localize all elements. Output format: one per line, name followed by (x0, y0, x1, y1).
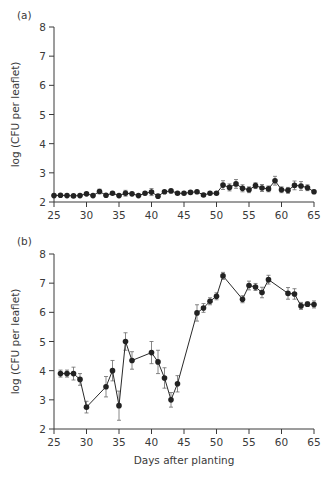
x-tick-label: 60 (275, 436, 288, 448)
panel-b: (b)2345678253035404550556065log (CFU per… (9, 235, 321, 466)
y-axis-title: log (CFU per leaflet) (9, 62, 21, 168)
x-tick-label: 55 (242, 436, 255, 448)
data-point (194, 310, 200, 316)
y-tick-label: 7 (39, 50, 46, 62)
data-point (155, 193, 161, 199)
data-point (305, 301, 311, 307)
x-tick-label: 50 (210, 209, 223, 221)
y-tick-label: 6 (39, 306, 46, 318)
data-point (90, 193, 96, 199)
data-point (84, 191, 90, 197)
data-point (207, 298, 213, 304)
data-point (155, 359, 161, 365)
data-point (298, 183, 304, 189)
x-tick-label: 65 (307, 436, 320, 448)
data-point (201, 192, 207, 198)
x-tick-label: 45 (177, 209, 190, 221)
data-point (142, 190, 148, 196)
data-point (266, 277, 272, 283)
data-point (103, 192, 109, 198)
x-tick-label: 50 (210, 436, 223, 448)
y-tick-label: 5 (39, 336, 46, 348)
data-point (259, 290, 265, 296)
data-point (266, 186, 272, 192)
series-line (61, 276, 315, 407)
data-point (136, 193, 142, 199)
data-point (64, 193, 70, 199)
data-point (253, 183, 259, 189)
data-point (64, 371, 70, 377)
data-point (162, 375, 168, 381)
data-point (233, 181, 239, 187)
data-point (292, 291, 298, 297)
data-point (123, 190, 129, 196)
x-tick-label: 35 (112, 436, 125, 448)
data-point (220, 182, 226, 188)
data-point (71, 371, 77, 377)
data-point (149, 350, 155, 356)
data-point (168, 188, 174, 194)
data-point (103, 384, 109, 390)
data-point (246, 187, 252, 193)
data-point (175, 381, 181, 387)
data-point (201, 305, 207, 311)
data-point (162, 189, 168, 195)
data-point (220, 273, 226, 279)
x-tick-label: 60 (275, 209, 288, 221)
data-point (246, 283, 252, 289)
data-point (110, 368, 116, 374)
y-tick-label: 6 (39, 79, 46, 91)
data-point (298, 303, 304, 309)
data-point (58, 371, 64, 377)
data-point (149, 189, 155, 195)
data-point (129, 358, 135, 364)
data-point (71, 193, 77, 199)
data-point (188, 190, 194, 196)
data-point (311, 189, 317, 195)
data-point (292, 183, 298, 189)
data-point (240, 296, 246, 302)
data-point (129, 191, 135, 197)
data-point (207, 190, 213, 196)
panel-label: (b) (17, 235, 32, 247)
panel-a: (a)2345678253035404550556065log (CFU per… (9, 9, 321, 221)
y-tick-label: 3 (39, 167, 46, 179)
x-tick-label: 30 (80, 209, 93, 221)
x-tick-label: 25 (47, 209, 60, 221)
data-point (110, 190, 116, 196)
data-point (116, 403, 122, 409)
data-point (214, 293, 220, 299)
x-axis-title: Days after planting (134, 454, 235, 466)
y-tick-label: 4 (39, 138, 46, 150)
data-point (97, 189, 103, 195)
data-point (123, 339, 129, 345)
x-tick-label: 35 (112, 209, 125, 221)
x-tick-label: 55 (242, 209, 255, 221)
y-tick-label: 5 (39, 109, 46, 121)
y-axis-title: log (CFU per leaflet) (9, 289, 21, 395)
x-tick-label: 45 (177, 436, 190, 448)
figure: (a)2345678253035404550556065log (CFU per… (0, 0, 334, 478)
x-tick-label: 30 (80, 436, 93, 448)
data-point (214, 190, 220, 196)
y-tick-label: 4 (39, 365, 46, 377)
data-point (253, 284, 259, 290)
y-tick-label: 8 (39, 21, 46, 33)
data-point (305, 185, 311, 191)
data-point (116, 193, 122, 199)
data-point (77, 377, 83, 383)
data-point (272, 178, 278, 184)
panel-label: (a) (17, 9, 32, 21)
x-tick-label: 25 (47, 436, 60, 448)
data-point (285, 291, 291, 297)
data-point (240, 185, 246, 191)
data-point (259, 185, 265, 191)
x-tick-label: 40 (145, 209, 158, 221)
y-tick-label: 7 (39, 277, 46, 289)
y-tick-label: 2 (39, 423, 46, 435)
x-tick-label: 40 (145, 436, 158, 448)
data-point (58, 192, 64, 198)
data-point (77, 193, 83, 199)
data-point (285, 188, 291, 194)
y-tick-label: 2 (39, 196, 46, 208)
